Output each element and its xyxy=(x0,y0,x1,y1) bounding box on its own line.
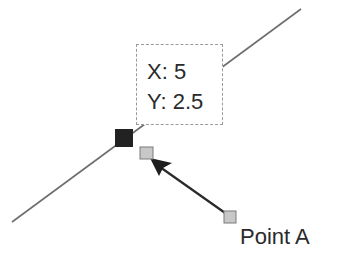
tooltip-y-value: Y: 2.5 xyxy=(147,87,222,117)
coordinate-tooltip: X: 5 Y: 2.5 xyxy=(136,44,223,125)
point-a-label: Point A xyxy=(240,224,310,250)
selected-point-marker[interactable] xyxy=(115,129,133,147)
tooltip-x-value: X: 5 xyxy=(147,57,222,87)
drag-arrow-line xyxy=(160,167,228,215)
point-a-marker[interactable] xyxy=(224,211,236,223)
drag-point-marker[interactable] xyxy=(140,147,153,159)
